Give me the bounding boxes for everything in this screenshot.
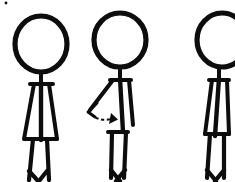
ink-speck-artifact [5,2,8,5]
figure-1-head [15,16,67,72]
stick-figure-3 [197,13,235,181]
stick-figure-2 [90,13,146,181]
illustration-canvas [0,0,235,182]
figure-2-head [94,13,146,67]
figure-1-foot-right [39,171,47,181]
figure-1-arm-right [49,84,57,139]
figure-3-arm-right [227,80,229,134]
figure-3-head [197,13,235,67]
motion-arrow-group [88,103,118,124]
figure-3-arm-left [205,80,212,134]
arrow-head-icon [109,113,118,124]
stick-figure-scene [0,0,235,182]
stick-figure-1 [15,16,67,181]
figure-2-spine [120,78,123,132]
figure-3-spine [215,78,219,136]
figure-1-arm-left [24,84,34,139]
figure-2-arm-right [129,80,133,125]
